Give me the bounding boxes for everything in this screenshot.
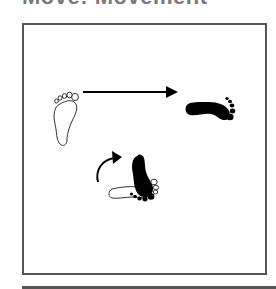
- outlined-foot-up-icon: [54, 92, 78, 145]
- movement-diagram: [0, 0, 276, 289]
- filled-foot-right-icon: [186, 97, 236, 120]
- straight-arrow-right-icon: [83, 86, 178, 98]
- curved-arrow-pivot-icon: [97, 151, 122, 182]
